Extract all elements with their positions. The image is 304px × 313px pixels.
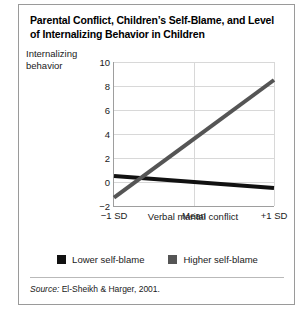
chart-region: Internalizing behavior −20246810 −1 SDMe…: [19, 45, 294, 230]
source-divider: [30, 277, 284, 278]
source-note: Source: El-Sheikh & Harger, 2001.: [30, 284, 160, 294]
chart-legend: Lower self-blameHigher self-blame: [19, 254, 296, 265]
legend-swatch-icon: [57, 255, 66, 264]
source-keyword: Source:: [30, 284, 59, 294]
legend-label: Lower self-blame: [72, 254, 144, 265]
y-tick-label: 0: [105, 177, 110, 188]
legend-entry: Higher self-blame: [168, 254, 257, 265]
y-tick-label: 10: [99, 57, 110, 68]
plot-area: −20246810 −1 SDMean+1 SD: [113, 62, 274, 207]
legend-label: Higher self-blame: [183, 254, 257, 265]
legend-swatch-icon: [168, 255, 177, 264]
source-citation: El-Sheikh & Harger, 2001.: [59, 284, 160, 294]
y-tick-label: 8: [105, 81, 110, 92]
y-tick-label: 6: [105, 105, 110, 116]
legend-entry: Lower self-blame: [57, 254, 144, 265]
y-tick-label: 4: [105, 129, 110, 140]
y-axis-title: Internalizing behavior: [26, 48, 102, 71]
x-axis-title: Verbal marital conflict: [113, 211, 273, 222]
y-tick-label: 2: [105, 153, 110, 164]
series-line: [114, 80, 274, 198]
gridline-vertical: [274, 62, 275, 206]
figure-container: Parental Conflict, Children’s Self-Blame…: [18, 4, 295, 305]
figure-title: Parental Conflict, Children’s Self-Blame…: [30, 14, 282, 41]
series-lines: [114, 62, 274, 206]
